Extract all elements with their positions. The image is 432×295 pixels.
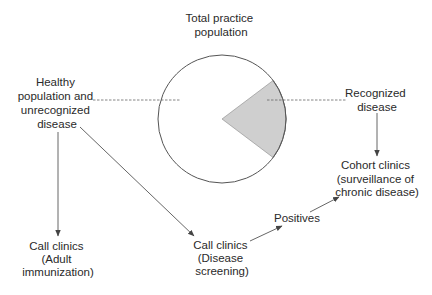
recognized-disease-label: Recognized disease <box>345 87 409 113</box>
adult-immunization-clinics-label: Call clinics (Adult immunization) <box>22 240 94 278</box>
practice-population-pie <box>158 55 286 183</box>
positives-label: Positives <box>274 212 320 224</box>
cohort-clinics-label: Cohort clinics (surveillance of chronic … <box>335 159 419 198</box>
disease-screening-clinics-label: Call clinics (Disease screening) <box>193 239 251 277</box>
arrow-screening-to-positives <box>250 226 282 241</box>
total-population-label: Total practice population <box>186 12 257 38</box>
healthy-population-label: Healthy population and unrecognized dise… <box>18 76 97 130</box>
care-flow-diagram: Total practice population Healthy popula… <box>0 0 432 295</box>
arrow-positives-to-cohort <box>310 197 339 212</box>
